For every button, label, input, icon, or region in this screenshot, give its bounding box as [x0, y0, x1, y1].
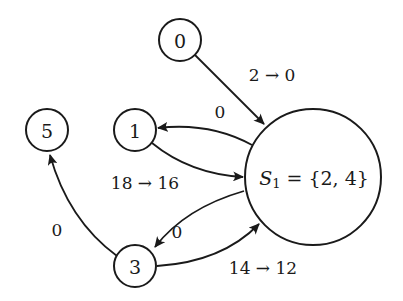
node-5: 5	[26, 109, 68, 151]
node-1: 1	[114, 109, 156, 151]
edge-label-s1-to-1: 0	[215, 102, 226, 122]
edge-s1-to-1	[158, 127, 252, 145]
set-subscript: 1	[272, 176, 280, 191]
edge-1-to-s1	[152, 143, 243, 177]
edge-s1-to-3	[155, 191, 244, 247]
graph-diagram: 2 → 0 0 18 → 16 0 0 14 → 12 0 5 1 3 S1 =…	[0, 0, 403, 301]
node-1-label: 1	[129, 120, 141, 142]
node-3: 3	[114, 245, 156, 287]
node-3-label: 3	[129, 256, 141, 278]
set-contents: = {2, 4}	[280, 167, 368, 189]
node-0-label: 0	[174, 30, 186, 52]
node-s1: S1 = {2, 4}	[245, 109, 381, 245]
edge-label-s1-to-3: 0	[172, 222, 183, 242]
edge-label-0-to-s1: 2 → 0	[249, 65, 296, 85]
edge-label-3-to-s1: 14 → 12	[229, 258, 297, 278]
edge-3-to-5	[50, 155, 117, 256]
edge-label-1-to-s1: 18 → 16	[111, 173, 179, 193]
node-5-label: 5	[41, 120, 53, 142]
node-0: 0	[159, 19, 201, 61]
set-variable: S	[259, 167, 272, 189]
edge-label-3-to-5: 0	[52, 220, 63, 240]
